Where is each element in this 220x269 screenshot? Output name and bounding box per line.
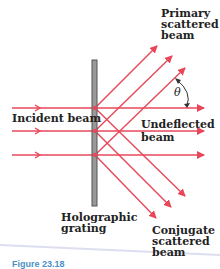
primary-label: Primary scattered beam bbox=[161, 8, 219, 41]
label-line: beam bbox=[152, 247, 215, 258]
figure-caption: Figure 23.18 bbox=[12, 259, 65, 269]
grating-label: Holographic grating bbox=[61, 212, 137, 234]
undeflected-label: Undeflected beam bbox=[141, 119, 215, 143]
label-line: beam bbox=[161, 30, 219, 41]
incident-label: Incident beam bbox=[12, 113, 101, 124]
theta-label: θ bbox=[174, 87, 181, 98]
conjugate-label: Conjugate scattered beam bbox=[152, 225, 215, 258]
label-line: beam bbox=[141, 132, 215, 143]
label-line: Undeflected bbox=[141, 119, 215, 130]
label-line: grating bbox=[61, 223, 137, 234]
